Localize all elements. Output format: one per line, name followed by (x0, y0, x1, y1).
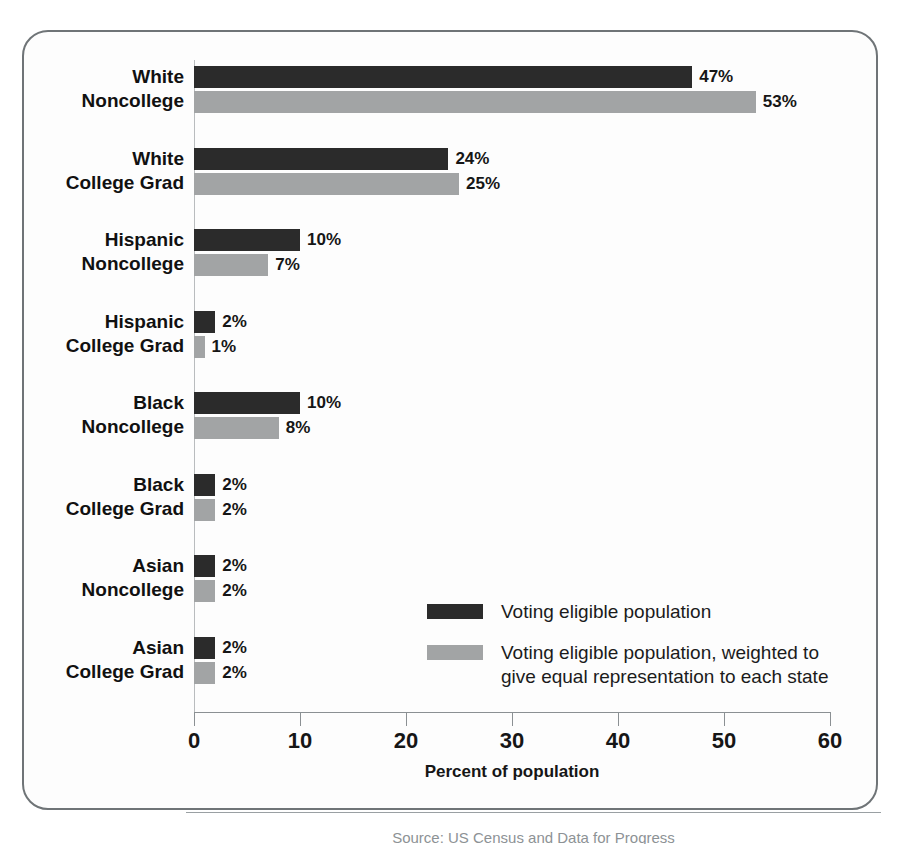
bar-voting-eligible (194, 229, 300, 251)
legend-label-line: Voting eligible population, weighted to (501, 641, 828, 666)
bar-voting-eligible-weighted (194, 662, 215, 684)
bar-value-label: 8% (279, 418, 311, 438)
category-label: HispanicCollege Grad (6, 310, 184, 359)
bar-value-label: 7% (268, 255, 300, 275)
bar-voting-eligible (194, 555, 215, 577)
x-tick-label: 30 (500, 728, 524, 754)
bar-value-label: 2% (215, 312, 247, 332)
bar-value-label: 10% (300, 393, 341, 413)
category-axis-labels: WhiteNoncollegeWhiteCollege GradHispanic… (0, 60, 184, 712)
bar-voting-eligible-weighted (194, 336, 205, 358)
bar-value-label: 1% (205, 337, 237, 357)
category-label: WhiteCollege Grad (6, 147, 184, 196)
bar-voting-eligible-weighted (194, 254, 268, 276)
x-axis-title: Percent of population (194, 762, 830, 782)
footer-divider (186, 812, 881, 813)
category-label-line: Asian (6, 636, 184, 660)
bar-value-label: 2% (215, 638, 247, 658)
category-label-line: Black (6, 473, 184, 497)
category-label: HispanicNoncollege (6, 228, 184, 277)
bar-voting-eligible (194, 311, 215, 333)
bar-value-label: 2% (215, 556, 247, 576)
bar-group: 10%8% (194, 390, 830, 452)
bar-group: 2%1% (194, 309, 830, 371)
category-label: AsianCollege Grad (6, 636, 184, 685)
x-tick-mark (194, 712, 195, 726)
x-tick-label: 10 (288, 728, 312, 754)
legend-label-line: Voting eligible population (501, 600, 711, 625)
category-label-line: Hispanic (6, 228, 184, 252)
x-tick-mark (618, 712, 619, 726)
bar-group: 2%2% (194, 472, 830, 534)
legend-label: Voting eligible population, weighted tog… (501, 641, 828, 690)
bar-value-label: 2% (215, 581, 247, 601)
category-label: WhiteNoncollege (6, 65, 184, 114)
category-label-line: College Grad (6, 171, 184, 195)
bar-value-label: 2% (215, 500, 247, 520)
x-tick-label: 40 (606, 728, 630, 754)
x-tick-label: 50 (712, 728, 736, 754)
source-note: Source: US Census and Data for Progress (186, 829, 881, 844)
category-label-line: Asian (6, 554, 184, 578)
bar-voting-eligible-weighted (194, 91, 756, 113)
x-tick-mark (830, 712, 831, 726)
bar-voting-eligible (194, 148, 448, 170)
category-label-line: White (6, 65, 184, 89)
legend-item[interactable]: Voting eligible population, weighted tog… (427, 641, 847, 690)
bar-voting-eligible-weighted (194, 417, 279, 439)
category-label-line: Noncollege (6, 252, 184, 276)
x-tick-mark (300, 712, 301, 726)
bar-value-label: 2% (215, 475, 247, 495)
x-tick-label: 20 (394, 728, 418, 754)
bar-voting-eligible (194, 392, 300, 414)
legend-swatch (427, 645, 483, 660)
legend-swatch (427, 604, 483, 619)
x-tick-mark (724, 712, 725, 726)
category-label: BlackCollege Grad (6, 473, 184, 522)
bar-value-label: 10% (300, 230, 341, 250)
category-label-line: College Grad (6, 497, 184, 521)
category-label: AsianNoncollege (6, 554, 184, 603)
bar-group: 10%7% (194, 227, 830, 289)
bar-voting-eligible (194, 474, 215, 496)
bar-value-label: 2% (215, 663, 247, 683)
bar-voting-eligible-weighted (194, 499, 215, 521)
bar-voting-eligible (194, 66, 692, 88)
bar-group: 24%25% (194, 146, 830, 208)
legend-item[interactable]: Voting eligible population (427, 600, 847, 625)
x-tick-mark (512, 712, 513, 726)
x-tick-mark (406, 712, 407, 726)
category-label-line: Hispanic (6, 310, 184, 334)
category-label-line: White (6, 147, 184, 171)
category-label-line: Noncollege (6, 578, 184, 602)
category-label-line: Black (6, 391, 184, 415)
bar-value-label: 25% (459, 174, 500, 194)
category-label: BlackNoncollege (6, 391, 184, 440)
chart-legend: Voting eligible populationVoting eligibl… (427, 600, 847, 706)
bar-voting-eligible-weighted (194, 173, 459, 195)
category-label-line: College Grad (6, 334, 184, 358)
category-label-line: Noncollege (6, 415, 184, 439)
bar-group: 47%53% (194, 64, 830, 126)
bar-value-label: 24% (448, 149, 489, 169)
category-label-line: Noncollege (6, 89, 184, 113)
bar-value-label: 47% (692, 67, 733, 87)
bar-value-label: 53% (756, 92, 797, 112)
x-tick-label: 0 (188, 728, 200, 754)
x-tick-label: 60 (818, 728, 842, 754)
bar-voting-eligible (194, 637, 215, 659)
category-label-line: College Grad (6, 660, 184, 684)
bar-voting-eligible-weighted (194, 580, 215, 602)
legend-label-line: give equal representation to each state (501, 665, 828, 690)
legend-label: Voting eligible population (501, 600, 711, 625)
